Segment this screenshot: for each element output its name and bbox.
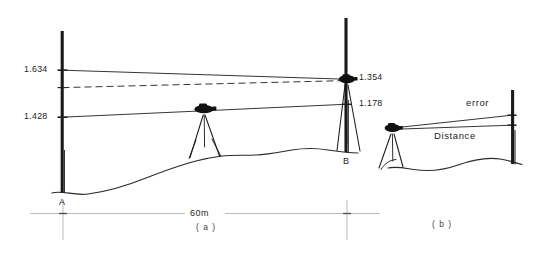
level-instrument-b bbox=[379, 123, 403, 168]
instrument-mound-a bbox=[189, 139, 221, 159]
levelling-diagram bbox=[0, 0, 542, 253]
reading-a-upper: 1.634 bbox=[24, 65, 48, 74]
error-label: error bbox=[466, 98, 489, 108]
point-label-a: A bbox=[59, 198, 65, 207]
collimation-line-dashed bbox=[63, 81, 346, 88]
ground-profile-b bbox=[388, 158, 522, 170]
distance-label: Distance bbox=[434, 131, 476, 141]
staff-a bbox=[62, 31, 64, 193]
point-label-b: B bbox=[343, 157, 349, 166]
caption-panel-b: ( b ) bbox=[432, 220, 452, 229]
ground-profile-a bbox=[52, 149, 358, 195]
reading-a-lower: 1.428 bbox=[24, 112, 48, 121]
staff-b-panel bbox=[513, 90, 515, 165]
sight-line-upper bbox=[63, 70, 346, 79]
dimension-60m bbox=[30, 200, 380, 240]
dimension-label-60m: 60m bbox=[190, 209, 209, 218]
caption-panel-a: ( a ) bbox=[196, 223, 216, 232]
reading-b-lower: 1.178 bbox=[359, 99, 383, 108]
reading-b-upper: 1.354 bbox=[359, 73, 383, 82]
